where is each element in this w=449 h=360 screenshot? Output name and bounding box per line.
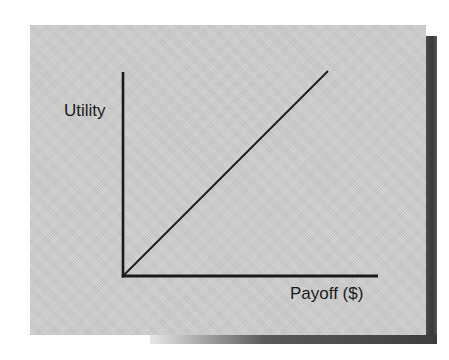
y-axis-label: Utility xyxy=(64,102,106,119)
utility-plot xyxy=(0,0,449,360)
x-axis-label: Payoff ($) xyxy=(290,285,363,302)
utility-line xyxy=(123,71,328,276)
